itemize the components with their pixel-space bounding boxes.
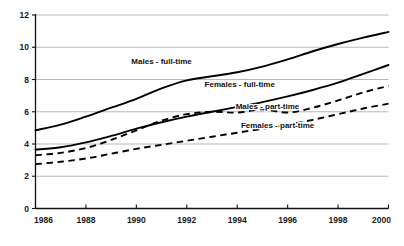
x-tick-label-1992: 1992 [177, 215, 196, 225]
y-tick-label-2: 2 [24, 171, 29, 181]
series-line-females-part-time [36, 104, 389, 164]
x-tick-label-1996: 1996 [278, 215, 297, 225]
series-line-males-part-time [36, 86, 389, 155]
gridlines [36, 15, 389, 176]
y-tick-label-12: 12 [20, 10, 30, 20]
y-tick-label-10: 10 [20, 42, 30, 52]
series-label-males-part-time: Males - part-time [236, 102, 300, 111]
series-label-females-part-time: Females - part-time [241, 121, 315, 130]
x-tick-label-2000: 2000 [372, 215, 391, 225]
y-axis-tick-labels: 024681012 [20, 10, 30, 214]
x-tick-label-1998: 1998 [329, 215, 348, 225]
y-tick-label-6: 6 [24, 107, 29, 117]
x-tick-label-1986: 1986 [34, 215, 53, 225]
y-tick-label-8: 8 [24, 75, 29, 85]
y-tick-label-0: 0 [24, 204, 29, 214]
x-tick-label-1994: 1994 [228, 215, 247, 225]
series-label-females-full-time: Females - full-time [205, 80, 276, 89]
y-tick-label-4: 4 [24, 139, 29, 149]
x-tick-label-1990: 1990 [127, 215, 146, 225]
line-chart: 024681012 198619881990199219941996199820… [0, 0, 404, 246]
chart-canvas: 024681012 198619881990199219941996199820… [0, 0, 404, 246]
x-axis-tick-labels: 19861988199019921994199619982000 [34, 215, 391, 225]
series-annotations: Males - full-timeMales - full-timeFemale… [131, 57, 314, 130]
x-tick-label-1988: 1988 [76, 215, 95, 225]
series-label-males-full-time: Males - full-time [131, 57, 192, 66]
